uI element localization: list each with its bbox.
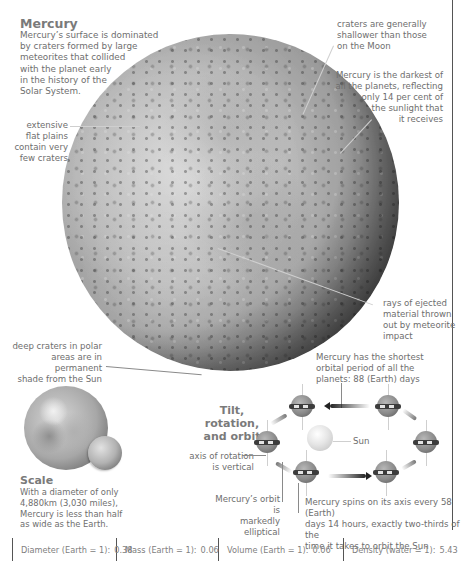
annotation-line: markedly elliptical xyxy=(206,516,280,538)
stat-value: 0.06 xyxy=(201,545,219,555)
annotation-line: is vertical xyxy=(186,462,254,473)
orbit-title-line: Tilt, rotation, xyxy=(192,404,272,430)
intro-line: meteorites that collided xyxy=(20,52,158,63)
leader-line-sun xyxy=(333,441,351,442)
sun-label: Sun xyxy=(353,436,369,447)
annotation-line: material thrown xyxy=(383,309,455,320)
scale-line: Mercury is less than half xyxy=(20,509,122,520)
leader-line-polar xyxy=(106,366,202,375)
scale-title: Scale xyxy=(20,474,53,487)
orbit-arc-bottom-left xyxy=(275,461,293,473)
stat-density: Density (water = 1):5.43 xyxy=(344,538,453,561)
leader-line-axis xyxy=(242,455,266,456)
annotation-elliptical-orbit: Mercury’s orbit is markedly elliptical xyxy=(206,494,280,538)
annotation-line: Mercury spins on its axis every 58 (Eart… xyxy=(305,497,468,519)
leader-line-elliptical xyxy=(282,462,283,502)
annotation-line: orbital period of all the xyxy=(316,363,424,374)
orbit-arc-top-left xyxy=(270,413,288,425)
annotation-line: deep craters in polar xyxy=(10,341,102,352)
intro-line: in the history of the xyxy=(20,75,158,86)
orbit-mercury-bottom-left xyxy=(295,461,317,483)
arrowhead-right-icon xyxy=(366,472,372,480)
sun-image xyxy=(307,425,333,451)
annotation-line: flat plains xyxy=(8,131,68,142)
mercury-scale-image xyxy=(88,436,122,470)
annotation-line: out by meteorite xyxy=(383,320,455,331)
scale-line: as wide as the Earth. xyxy=(20,519,122,530)
annotation-line: shallower than those xyxy=(337,30,427,41)
orbit-mercury-top-right xyxy=(377,395,399,417)
intro-text: Mercury’s surface is dominated by crater… xyxy=(20,30,158,97)
annotation-line: only 14 per cent of xyxy=(320,92,443,103)
annotation-line: planets: 88 (Earth) days xyxy=(316,374,424,385)
stat-volume: Volume (Earth = 1):0.06 xyxy=(219,538,344,561)
page-title: Mercury xyxy=(20,16,78,31)
intro-line: by craters formed by large xyxy=(20,41,158,52)
annotation-line: rays of ejected xyxy=(383,298,455,309)
annotation-line: the sunlight that xyxy=(320,103,443,114)
orbit-mercury-left xyxy=(256,431,278,453)
stat-label: Mass (Earth = 1): xyxy=(125,545,197,555)
leader-line-spin xyxy=(298,483,299,513)
stat-value: 0.06 xyxy=(312,545,330,555)
stat-diameter: Diameter (Earth = 1):0.38 xyxy=(13,538,117,561)
annotation-polar: deep craters in polar areas are in perma… xyxy=(10,341,102,385)
intro-line: Mercury’s surface is dominated xyxy=(20,30,158,41)
orbit-arc-bottom-right xyxy=(401,459,417,470)
annotation-line: areas are in permanent xyxy=(10,352,102,374)
stat-value: 5.43 xyxy=(439,545,457,555)
orbit-mercury-top-left xyxy=(291,395,313,417)
annotation-shallow-craters: craters are generally shallower than tho… xyxy=(337,19,427,52)
annotation-line: craters are generally xyxy=(337,19,427,30)
stat-mass: Mass (Earth = 1):0.06 xyxy=(117,538,219,561)
scale-line: With a diameter of only xyxy=(20,487,122,498)
orbit-arc-top-right xyxy=(402,408,417,420)
annotation-line: extensive xyxy=(8,120,68,131)
scale-line: 4,880km (3,030 miles), xyxy=(20,498,122,509)
annotation-line: on the Moon xyxy=(337,41,427,52)
intro-line: with the planet early xyxy=(20,64,158,75)
intro-line: Solar System. xyxy=(20,86,158,97)
stat-label: Diameter (Earth = 1): xyxy=(21,545,110,555)
annotation-line: contain very xyxy=(8,142,68,153)
leader-line-flat-plains xyxy=(70,126,140,127)
stats-bar: Diameter (Earth = 1):0.38 Mass (Earth = … xyxy=(12,538,453,561)
annotation-line: Mercury has the shortest xyxy=(316,352,424,363)
orbit-arrow-top xyxy=(330,404,370,408)
annotation-line: Mercury is the darkest of xyxy=(320,70,443,81)
scale-text: With a diameter of only 4,880km (3,030 m… xyxy=(20,487,122,530)
annotation-darkest: Mercury is the darkest of all the planet… xyxy=(320,70,443,125)
orbit-mercury-bottom-right xyxy=(375,461,397,483)
annotation-line: all the planets, reflecting xyxy=(320,81,443,92)
annotation-line: it receives xyxy=(320,114,443,125)
orbit-arrow-bottom xyxy=(328,474,366,478)
annotation-line: impact xyxy=(383,331,455,342)
annotation-line: few craters xyxy=(8,153,68,164)
right-border-rule xyxy=(452,0,453,530)
annotation-rays: rays of ejected material thrown out by m… xyxy=(383,298,455,342)
mercury-infographic-page: Mercury Mercury’s surface is dominated b… xyxy=(0,0,468,561)
annotation-line: shade from the Sun xyxy=(10,374,102,385)
stat-label: Density (water = 1): xyxy=(352,545,435,555)
stat-label: Volume (Earth = 1): xyxy=(227,545,308,555)
annotation-flat-plains: extensive flat plains contain very few c… xyxy=(8,120,68,164)
annotation-orbital-period: Mercury has the shortest orbital period … xyxy=(316,352,424,385)
annotation-line: Mercury’s orbit is xyxy=(206,494,280,516)
orbit-mercury-right xyxy=(415,431,437,453)
arrowhead-left-icon xyxy=(324,402,330,410)
annotation-line: axis of rotation xyxy=(186,451,254,462)
